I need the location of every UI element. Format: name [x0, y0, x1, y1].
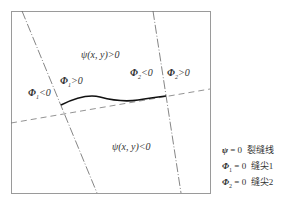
legend-item-tip2: Φ2 = 0 缝尖2 [222, 175, 273, 189]
domain-frame [12, 12, 211, 194]
diagram-canvas [0, 0, 289, 204]
label-phi1-positive: Φ1>0 [60, 75, 83, 88]
legend-item-tip1: Φ1 = 0 缝尖1 [222, 159, 273, 173]
region-label-psi-positive: ψ(x, y)>0 [81, 49, 120, 60]
legend-item-crack-line: ψ = 0 裂缝线 [222, 143, 274, 156]
label-phi2-negative: Φ2<0 [130, 67, 153, 80]
phi1-zero-line [22, 11, 97, 193]
crack-line [61, 96, 166, 105]
label-phi1-negative: Φ1<0 [28, 87, 51, 100]
region-label-psi-negative: ψ(x, y)<0 [112, 141, 151, 152]
label-phi2-positive: Φ2>0 [167, 67, 190, 80]
phi2-zero-line [153, 11, 181, 193]
